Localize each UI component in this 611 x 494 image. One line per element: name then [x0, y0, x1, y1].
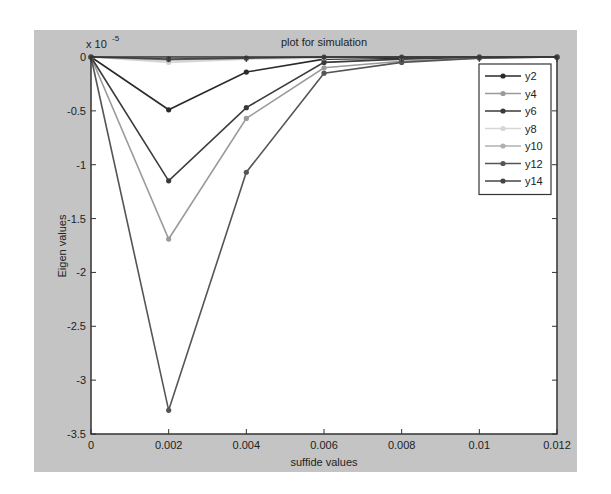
- data-point: [321, 65, 326, 70]
- y-tick-label: -0.5: [67, 105, 86, 117]
- x-tick-label: 0.012: [543, 439, 571, 451]
- y-axis-label: Eigen values: [56, 214, 68, 277]
- y-tick-label: -3: [76, 374, 86, 386]
- legend-label: y4: [525, 88, 537, 100]
- data-point: [166, 107, 171, 112]
- data-point: [244, 105, 249, 110]
- x-tick-label: 0.004: [233, 439, 261, 451]
- y-tick-label: -1.5: [67, 213, 86, 225]
- y-exponent: -5: [112, 34, 120, 43]
- data-point: [166, 236, 171, 241]
- legend-label: y14: [525, 175, 543, 187]
- data-point: [166, 178, 171, 183]
- x-tick-label: 0.006: [310, 439, 338, 451]
- y-tick-label: -1: [76, 159, 86, 171]
- x-tick-label: 0.01: [469, 439, 490, 451]
- x-tick-label: 0.008: [388, 439, 416, 451]
- y-tick-label: -3.5: [67, 428, 86, 440]
- data-point: [244, 170, 249, 175]
- x-axis-label: suffide values: [290, 456, 358, 468]
- y-multiplier: x 10: [86, 38, 107, 50]
- y-tick-label: -2.5: [67, 320, 86, 332]
- data-point: [321, 71, 326, 76]
- y-tick-label: -2: [76, 266, 86, 278]
- legend-label: y6: [525, 105, 537, 117]
- legend: y2y4y6y8y10y12y14: [479, 64, 551, 195]
- data-point: [244, 69, 249, 74]
- y-tick-label: 0: [80, 51, 86, 63]
- legend-label: y8: [525, 123, 537, 135]
- legend-label: y2: [525, 70, 537, 82]
- chart-title: plot for simulation: [281, 36, 367, 48]
- legend-label: y12: [525, 158, 543, 170]
- data-point: [166, 408, 171, 413]
- data-point: [244, 116, 249, 121]
- x-tick-label: 0: [88, 439, 94, 451]
- line-chart: 00.0020.0040.0060.0080.010.012 0-0.5-1-1…: [0, 0, 611, 494]
- x-tick-label: 0.002: [155, 439, 183, 451]
- legend-label: y10: [525, 140, 543, 152]
